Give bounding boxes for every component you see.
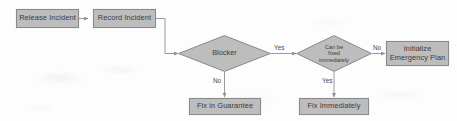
can-be-fixed-diamond-shape	[297, 36, 372, 72]
node-fix-immediately-label: Fix Immediately	[307, 102, 360, 111]
node-release-incident-label: Release Incident	[19, 14, 76, 23]
node-can-be-fixed-immediately[interactable]: Can be fixed immediately	[296, 35, 372, 72]
node-initialize-emergency-plan[interactable]: Initialize Emergency Plan	[386, 41, 449, 66]
edge-label-blocker-no: No	[213, 77, 221, 84]
node-record-incident[interactable]: Record Incident	[93, 9, 156, 28]
node-blocker[interactable]: Blocker	[178, 35, 271, 72]
flowchart-canvas: Release Incident Record Incident Blocker…	[0, 0, 457, 121]
node-release-incident[interactable]: Release Incident	[16, 9, 79, 28]
node-fix-in-guarantee-label: Fix in Guarantee	[197, 102, 253, 111]
edge-label-can-be-fixed-yes: Yes	[322, 77, 332, 84]
edge-label-can-be-fixed-no: No	[373, 44, 381, 51]
node-fix-immediately[interactable]: Fix Immediately	[299, 98, 369, 115]
edge-label-blocker-yes: Yes	[274, 44, 284, 51]
node-record-incident-label: Record Incident	[98, 14, 151, 23]
node-fix-in-guarantee[interactable]: Fix in Guarantee	[189, 98, 261, 115]
blocker-diamond-shape	[179, 36, 271, 72]
edge-record-to-blocker	[156, 19, 178, 54]
node-initialize-emergency-plan-label: Initialize Emergency Plan	[390, 45, 446, 62]
